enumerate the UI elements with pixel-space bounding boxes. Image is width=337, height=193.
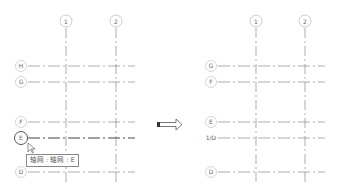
column-label: 2: [114, 18, 118, 25]
row-label: F: [209, 78, 213, 85]
column-label: 2: [303, 18, 307, 25]
tooltip: 轴网 : 轴网 : E: [26, 154, 79, 167]
grid-after: 12GFE1/DD: [206, 15, 326, 185]
row-label: H: [19, 62, 24, 69]
row-label: 1/D: [206, 134, 217, 141]
row-label: D: [209, 168, 214, 175]
row-label: G: [19, 78, 24, 85]
row-label: E: [209, 118, 213, 125]
row-label: G: [209, 62, 214, 69]
column-label: 1: [254, 18, 258, 25]
row-label: D: [19, 168, 24, 175]
row-label: F: [19, 118, 23, 125]
column-label: 1: [64, 18, 68, 25]
arrow-right-icon: [157, 119, 182, 130]
cursor-icon: [28, 143, 35, 153]
row-label: E: [19, 134, 23, 141]
